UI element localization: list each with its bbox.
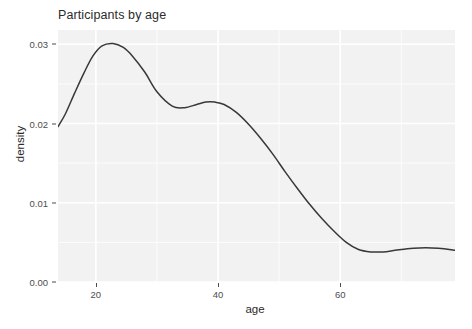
x-tick-mark [96,283,97,287]
x-tick-mark [218,283,219,287]
y-tick-mark [52,282,56,283]
y-tick-label: 0.00 [0,277,48,288]
x-axis-title: age [0,303,472,315]
y-tick-mark [52,202,56,203]
data-series-group [58,43,455,252]
x-tick-label: 60 [335,289,346,300]
x-tick-mark [340,283,341,287]
y-tick-mark [52,44,56,45]
x-tick-label: 20 [91,289,102,300]
y-tick-mark [52,123,56,124]
gridlines [58,30,455,282]
chart-title: Participants by age [58,8,166,22]
x-axis-title-text: age [245,303,264,315]
plot-panel [58,30,455,282]
y-axis-title: density [14,84,26,204]
plot-canvas [58,30,455,282]
density-plot: Participants by age 0.000.010.020.03 204… [0,0,472,329]
x-tick-label: 40 [213,289,224,300]
y-tick-label: 0.03 [0,39,48,50]
